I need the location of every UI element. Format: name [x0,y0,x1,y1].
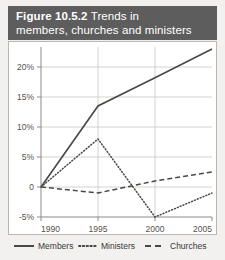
figure-title-part-1: Trends in [88,10,140,22]
figure-container: Figure 10.5.2 Trends in members, churche… [0,0,225,260]
figure-title-line-1: Figure 10.5.2 Trends in [16,9,211,23]
plot-area-frame [8,41,217,235]
figure-title-line-2: members, churches and ministers [16,23,211,37]
figure-number: Figure 10.5.2 [16,10,88,22]
figure-title-bar: Figure 10.5.2 Trends in members, churche… [8,6,217,40]
legend-frame [8,236,217,254]
